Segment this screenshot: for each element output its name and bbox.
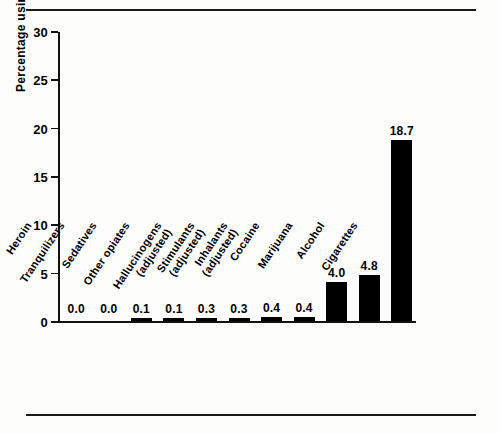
y-tick-label: 10 <box>33 219 48 232</box>
y-tick-label: 25 <box>33 74 48 87</box>
y-tick-mark <box>51 31 58 33</box>
bar <box>359 275 380 321</box>
y-tick-label: 15 <box>33 171 48 184</box>
plot-area: 051015202530 0.00.00.10.10.30.30.40.44.0… <box>58 32 416 322</box>
y-tick-label: 0 <box>41 316 48 329</box>
y-tick-label: 20 <box>33 122 48 135</box>
bar <box>326 282 347 321</box>
y-tick-mark <box>51 79 58 81</box>
y-tick-label: 30 <box>33 26 48 39</box>
bar <box>391 140 412 321</box>
y-tick-mark <box>51 128 58 130</box>
chart-figure: Percentage using daily 051015202530 0.00… <box>0 0 500 434</box>
top-horizontal-rule <box>26 9 476 11</box>
bottom-horizontal-rule <box>26 414 476 416</box>
y-axis-title: Percentage using daily <box>14 0 28 92</box>
y-tick-label: 5 <box>41 267 48 280</box>
bar-value-label: 4.8 <box>361 260 378 272</box>
y-tick-mark <box>51 176 58 178</box>
bar-value-label: 18.7 <box>390 125 414 137</box>
